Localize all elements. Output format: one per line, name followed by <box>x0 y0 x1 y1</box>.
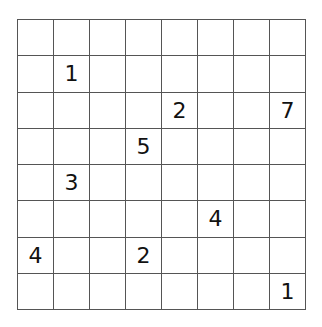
grid-cell[interactable] <box>54 274 90 310</box>
grid-cell[interactable] <box>126 165 162 201</box>
grid-cell[interactable]: 4 <box>18 238 54 274</box>
grid-cell[interactable] <box>90 56 126 92</box>
grid-cell[interactable] <box>234 238 270 274</box>
grid-cell[interactable] <box>234 56 270 92</box>
grid-cell[interactable] <box>198 20 234 56</box>
grid-cell[interactable] <box>90 201 126 237</box>
grid-cell[interactable]: 2 <box>162 93 198 129</box>
grid-cell[interactable] <box>18 129 54 165</box>
grid-cell[interactable]: 4 <box>198 201 234 237</box>
grid-cell[interactable] <box>90 238 126 274</box>
grid-cell[interactable] <box>198 165 234 201</box>
grid-cell[interactable] <box>54 129 90 165</box>
grid-cell[interactable] <box>234 20 270 56</box>
grid-cell[interactable] <box>162 56 198 92</box>
grid-cell[interactable] <box>90 165 126 201</box>
grid-cell[interactable] <box>234 201 270 237</box>
grid-cell[interactable] <box>162 238 198 274</box>
grid-cell[interactable] <box>162 201 198 237</box>
grid-cell[interactable] <box>126 274 162 310</box>
grid-cell[interactable]: 1 <box>54 56 90 92</box>
grid-cell[interactable] <box>18 56 54 92</box>
grid-cell[interactable] <box>126 20 162 56</box>
grid-cell[interactable] <box>54 201 90 237</box>
grid-cell[interactable]: 5 <box>126 129 162 165</box>
grid-cell[interactable] <box>126 201 162 237</box>
grid-cell[interactable] <box>18 274 54 310</box>
grid-cell[interactable] <box>198 274 234 310</box>
grid-cell[interactable] <box>270 238 306 274</box>
grid-cell[interactable] <box>90 93 126 129</box>
grid-cell[interactable] <box>198 56 234 92</box>
grid-cell[interactable]: 1 <box>270 274 306 310</box>
grid-cell[interactable] <box>270 165 306 201</box>
grid-cell[interactable] <box>90 129 126 165</box>
grid-cell[interactable] <box>162 274 198 310</box>
grid-cell[interactable] <box>198 129 234 165</box>
grid-cell[interactable] <box>270 129 306 165</box>
grid-cell[interactable] <box>234 274 270 310</box>
grid-cell[interactable] <box>162 129 198 165</box>
grid-cell[interactable] <box>162 20 198 56</box>
grid-cell[interactable] <box>18 20 54 56</box>
grid-cell[interactable]: 7 <box>270 93 306 129</box>
grid-cell[interactable] <box>18 93 54 129</box>
grid-cell[interactable] <box>90 20 126 56</box>
grid-cell[interactable] <box>234 165 270 201</box>
grid-cell[interactable] <box>198 238 234 274</box>
grid-cell[interactable]: 3 <box>54 165 90 201</box>
grid-cell[interactable] <box>234 93 270 129</box>
grid-cell[interactable]: 2 <box>126 238 162 274</box>
puzzle-grid: 127534421 <box>17 19 306 310</box>
grid-cell[interactable] <box>54 238 90 274</box>
grid-cell[interactable] <box>162 165 198 201</box>
grid-cell[interactable] <box>198 93 234 129</box>
grid-cell[interactable] <box>90 274 126 310</box>
grid-cell[interactable] <box>270 20 306 56</box>
grid-cell[interactable] <box>54 93 90 129</box>
grid-cell[interactable] <box>54 20 90 56</box>
grid-cell[interactable] <box>126 93 162 129</box>
grid-cell[interactable] <box>18 201 54 237</box>
grid-cell[interactable] <box>18 165 54 201</box>
grid-cell[interactable] <box>270 56 306 92</box>
grid-cell[interactable] <box>234 129 270 165</box>
grid-cell[interactable] <box>270 201 306 237</box>
grid-cell[interactable] <box>126 56 162 92</box>
